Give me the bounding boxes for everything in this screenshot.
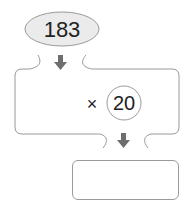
multiplier-bubble: 20 bbox=[107, 86, 141, 120]
multiply-operator: × bbox=[87, 94, 98, 114]
start-value-bubble: 183 bbox=[25, 12, 99, 46]
down-arrow-icon bbox=[54, 55, 67, 70]
start-value: 183 bbox=[44, 17, 81, 42]
multiplication-flow-diagram: 183 × 20 bbox=[0, 0, 192, 214]
answer-input-box[interactable] bbox=[72, 160, 179, 200]
down-arrow-icon bbox=[117, 133, 130, 148]
multiplier-value: 20 bbox=[113, 92, 135, 114]
